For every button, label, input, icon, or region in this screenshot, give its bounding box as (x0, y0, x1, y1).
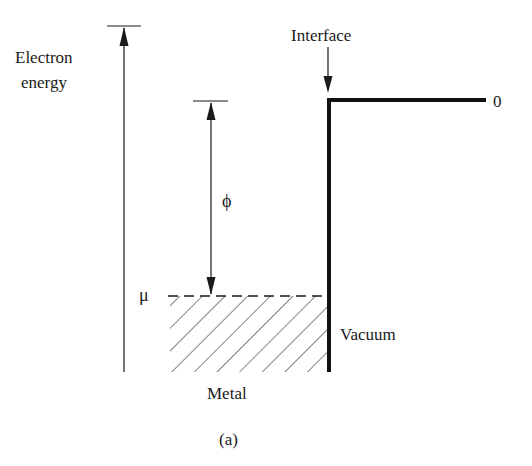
energy-axis-arrow (107, 26, 141, 372)
chemical-potential-label: μ (139, 285, 149, 305)
zero-level-label: 0 (493, 92, 502, 111)
energy-level-diagram: Electron energy ϕ Interface 0 μ Vacuum M… (0, 0, 532, 466)
interface-arrow (324, 47, 333, 93)
axis-label-line2: energy (21, 73, 67, 92)
work-function-label: ϕ (222, 191, 231, 211)
figure-caption: (a) (219, 430, 238, 449)
axis-label-line1: Electron (15, 48, 73, 67)
interface-label: Interface (291, 26, 351, 45)
vacuum-label: Vacuum (340, 325, 396, 344)
metal-label: Metal (207, 384, 247, 403)
metal-region-hatch (160, 290, 340, 380)
